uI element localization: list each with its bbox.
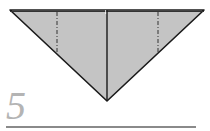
divider-rule [6,126,196,128]
origami-step-diagram [0,0,210,131]
step-number: 5 [6,86,26,126]
